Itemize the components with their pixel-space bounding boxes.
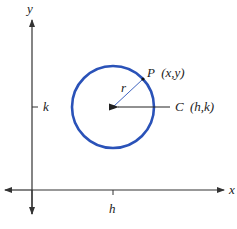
- k-label: k: [43, 99, 49, 114]
- center-point: [111, 105, 114, 108]
- center-c-label: C (h,k): [175, 99, 214, 114]
- radius-label: r: [121, 80, 127, 95]
- y-axis-label: y: [25, 1, 33, 16]
- circle-diagram: y x k h r P (x,y) C (h,k): [0, 0, 237, 229]
- center-c-letter: C: [175, 99, 184, 114]
- point-p-label: P (x,y): [146, 65, 185, 80]
- center-c-coords: (h,k): [190, 99, 214, 114]
- h-label: h: [109, 201, 116, 216]
- point-p: [141, 77, 144, 80]
- radius-line: [113, 79, 143, 107]
- point-p-letter: P: [146, 65, 155, 80]
- x-axis-label: x: [228, 182, 235, 197]
- point-p-coords: (x,y): [161, 65, 184, 80]
